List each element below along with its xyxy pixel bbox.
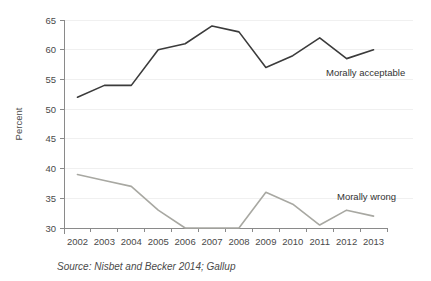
x-tick-label: 2012 (336, 236, 357, 247)
x-tick-label: 2005 (148, 236, 169, 247)
series-label-morally-wrong: Morally wrong (337, 191, 396, 202)
x-tick-label: 2003 (94, 236, 115, 247)
x-tick-label: 2007 (201, 236, 222, 247)
y-axis-title: Percent (13, 107, 24, 140)
y-tick-label: 40 (45, 163, 56, 174)
source-caption: Source: Nisbet and Becker 2014; Gallup (57, 261, 236, 272)
line-chart: 3035404550556065 20022003200420052006200… (0, 0, 431, 281)
y-tick-label: 45 (45, 133, 56, 144)
chart-figure: 3035404550556065 20022003200420052006200… (0, 0, 431, 281)
y-tick-label: 55 (45, 74, 56, 85)
x-tick-label: 2010 (282, 236, 303, 247)
y-tick-label: 60 (45, 44, 56, 55)
x-tick-label: 2002 (67, 236, 88, 247)
y-tick-label: 30 (45, 223, 56, 234)
y-tick-label: 50 (45, 104, 56, 115)
x-tick-label: 2013 (363, 236, 384, 247)
series-label-morally-acceptable: Morally acceptable (326, 67, 405, 78)
y-tick-label: 35 (45, 193, 56, 204)
x-tick-label: 2008 (228, 236, 249, 247)
x-tick-label: 2006 (175, 236, 196, 247)
x-tick-label: 2011 (309, 236, 329, 247)
x-tick-label: 2009 (255, 236, 276, 247)
x-tick-label: 2004 (121, 236, 142, 247)
y-tick-label: 65 (45, 15, 56, 26)
